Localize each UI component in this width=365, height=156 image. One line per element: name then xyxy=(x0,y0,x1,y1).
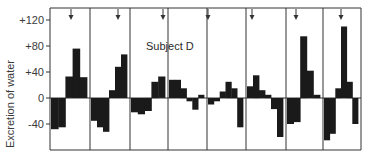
y-tick-label: +40 xyxy=(25,66,44,78)
bar xyxy=(352,98,358,124)
arrow-down-icon xyxy=(161,9,166,20)
bar xyxy=(294,98,301,122)
bar xyxy=(121,54,127,98)
y-tick-label: +80 xyxy=(25,40,44,52)
bar xyxy=(287,98,294,124)
arrow-down-icon xyxy=(116,9,121,20)
bar xyxy=(208,98,214,105)
bar xyxy=(277,98,283,137)
bar xyxy=(271,98,277,109)
bar xyxy=(187,98,193,101)
bar xyxy=(192,98,198,110)
bar xyxy=(145,98,152,111)
y-axis: +120+80+400-40 xyxy=(19,8,50,150)
bar xyxy=(220,92,226,99)
bar xyxy=(341,27,347,99)
arrow-down-icon xyxy=(294,9,299,20)
bar xyxy=(51,98,59,129)
bar xyxy=(214,98,220,101)
bar xyxy=(330,98,336,134)
chart-title: Subject D xyxy=(146,40,194,52)
bar xyxy=(73,49,81,98)
bar xyxy=(313,95,320,98)
arrow-down-icon xyxy=(69,9,74,20)
bar xyxy=(247,86,253,98)
bar xyxy=(259,90,265,98)
bar xyxy=(181,88,187,98)
bar xyxy=(151,82,158,98)
bar xyxy=(198,95,204,98)
bar xyxy=(347,82,353,98)
bar xyxy=(109,90,115,98)
bar xyxy=(91,98,97,121)
bar xyxy=(103,98,109,132)
bar xyxy=(237,98,243,127)
bar xyxy=(265,95,271,98)
bar xyxy=(65,77,73,98)
bar xyxy=(80,77,88,98)
bar xyxy=(169,80,175,98)
bar xyxy=(307,71,314,98)
bar xyxy=(58,98,66,127)
bar xyxy=(131,98,138,112)
arrow-down-icon xyxy=(250,9,255,20)
bar xyxy=(231,88,237,98)
bar xyxy=(138,98,145,114)
bar xyxy=(115,67,121,98)
y-axis-label: Excretion of water xyxy=(4,60,16,148)
bar-chart: +120+80+400-40 Subject D Excretion of wa… xyxy=(0,0,365,156)
bar xyxy=(175,80,181,98)
y-tick-label: 0 xyxy=(38,92,44,104)
y-tick-label: -40 xyxy=(28,118,44,130)
plot-frame xyxy=(50,8,361,150)
bar xyxy=(97,98,103,127)
bars xyxy=(51,27,358,141)
y-tick-label: +120 xyxy=(19,14,44,26)
arrows xyxy=(69,9,344,20)
bar xyxy=(300,36,307,98)
bar xyxy=(324,98,330,140)
bar xyxy=(158,77,165,98)
bar xyxy=(253,75,259,98)
arrow-down-icon xyxy=(339,9,344,20)
bar xyxy=(335,88,341,98)
bar xyxy=(226,82,232,98)
arrow-down-icon xyxy=(206,9,211,20)
